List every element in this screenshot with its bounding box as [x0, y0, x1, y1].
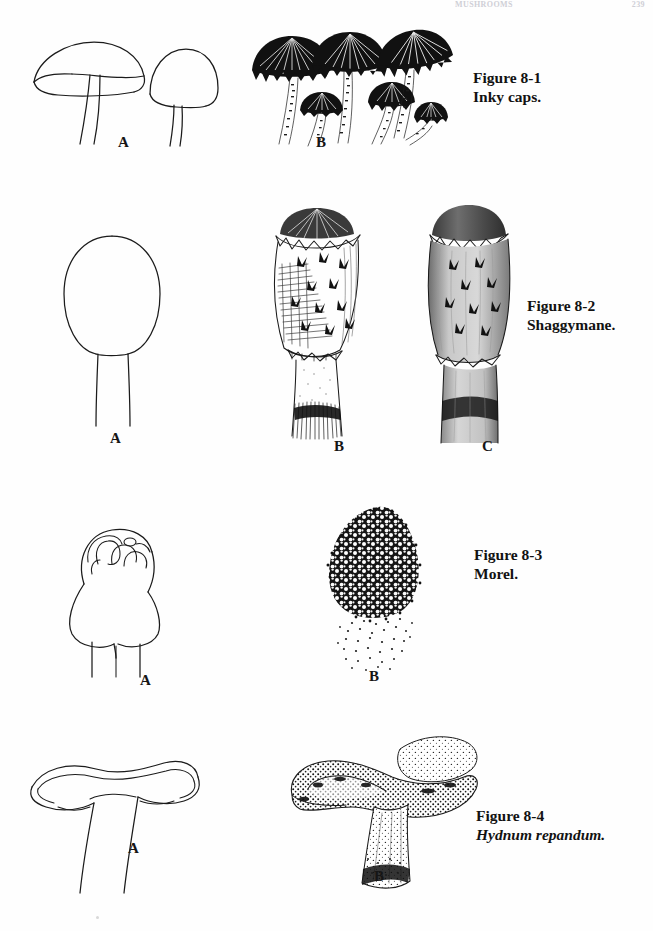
panel-label-b: B — [334, 438, 344, 455]
running-head-title: MUSHROOMS — [455, 0, 513, 11]
figure-8-2-panel-c — [422, 205, 518, 445]
figure-8-3-caption: Figure 8-3 Morel. — [474, 545, 542, 584]
panel-label-a: A — [140, 672, 151, 689]
figure-8-1-caption-line2: Inky caps. — [473, 87, 541, 106]
panel-label-a: A — [110, 430, 121, 447]
figure-8-4-panel-a — [24, 745, 204, 895]
figure-8-2-caption-line1: Figure 8-2 — [527, 296, 615, 315]
shaggymane-scaly-illustration — [262, 208, 380, 440]
figure-8-1-panel-a — [28, 28, 223, 148]
figure-8-3-panel-b — [316, 505, 440, 675]
panel-label-a: A — [128, 840, 139, 857]
panel-label-b: B — [316, 134, 326, 151]
figure-8-4-caption-line1: Figure 8-4 — [476, 806, 605, 825]
figure-8-1-caption-line1: Figure 8-1 — [473, 68, 541, 87]
running-head: MUSHROOMS 239 — [455, 0, 645, 11]
inky-cap-outline-illustration — [28, 28, 223, 148]
figure-8-3-caption-line1: Figure 8-3 — [474, 545, 542, 564]
shaggymane-closeup-illustration — [422, 205, 518, 445]
figure-8-1-caption: Figure 8-1 Inky caps. — [473, 68, 541, 107]
figure-8-4-caption: Figure 8-4 Hydnum repandum. — [476, 806, 605, 845]
figure-8-2-caption-line2: Shaggymane. — [527, 315, 615, 334]
figure-8-1-panel-b — [248, 26, 453, 148]
running-head-page-number: 239 — [632, 0, 645, 11]
morel-outline-illustration — [62, 518, 192, 678]
scan-artifact-dot — [96, 916, 99, 919]
figure-8-2-panel-a — [48, 232, 178, 428]
inky-cap-cluster-illustration — [248, 26, 453, 148]
figure-8-4-caption-line2: Hydnum repandum. — [476, 825, 605, 844]
panel-label-a: A — [118, 134, 129, 151]
hydnum-outline-illustration — [24, 745, 204, 895]
figure-8-3-panel-a — [62, 518, 192, 678]
shaggymane-outline-illustration — [48, 232, 178, 428]
figure-8-2-caption: Figure 8-2 Shaggymane. — [527, 296, 615, 335]
panel-label-b: B — [374, 868, 384, 885]
figure-8-2-panel-b — [262, 208, 380, 440]
panel-label-c: C — [482, 438, 493, 455]
book-page: MUSHROOMS 239 A — [0, 0, 653, 931]
morel-honeycomb-illustration — [316, 505, 440, 675]
panel-label-b: B — [369, 668, 379, 685]
figure-8-3-caption-line2: Morel. — [474, 564, 542, 583]
